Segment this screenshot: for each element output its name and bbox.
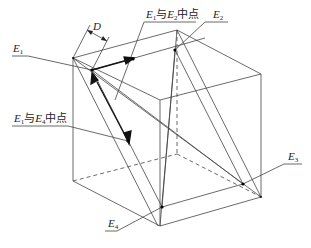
point-e3 <box>241 182 244 185</box>
e2-leader <box>175 22 228 50</box>
edge-e4-e3 <box>162 184 243 207</box>
arrow-to-e1e2-mid <box>92 60 128 70</box>
cube-diagram: E1 D E1与E2中点 E2 E1与E4中点 E3 E4 <box>0 0 311 248</box>
diag-e2-e3-b <box>175 50 243 184</box>
cube-edge-bottom-right <box>160 197 261 226</box>
label-e1-e4-midpoint: E1与E4中点 <box>14 113 67 126</box>
arrow-to-e1e4-mid <box>97 82 128 141</box>
label-e2: E2 <box>213 9 223 22</box>
cube-hidden-bottom-left <box>73 154 177 181</box>
e3-leader <box>243 164 302 184</box>
label-d: D <box>93 21 101 32</box>
point-e1e2-mid <box>131 57 134 60</box>
diag-e2-e4-b <box>162 50 175 207</box>
diag-e1-e4-a <box>73 58 158 226</box>
point-e2 <box>173 48 176 51</box>
diag-e1-e3-b <box>92 70 243 184</box>
vertex-tl <box>72 57 74 59</box>
vertex-br <box>260 196 262 198</box>
mid14-leader <box>12 126 128 141</box>
diag-e2-e3-a <box>177 30 261 197</box>
point-e1 <box>90 68 93 71</box>
point-e4 <box>160 205 163 208</box>
label-e1: E1 <box>13 43 23 56</box>
point-e1e4-mid <box>126 139 129 142</box>
label-e4: E4 <box>108 218 118 231</box>
d-arrowhead-right <box>101 36 107 41</box>
label-e3: E3 <box>288 151 298 164</box>
label-e1-e2-midpoint: E1与E2中点 <box>146 9 199 22</box>
d-ext-2 <box>92 37 109 70</box>
